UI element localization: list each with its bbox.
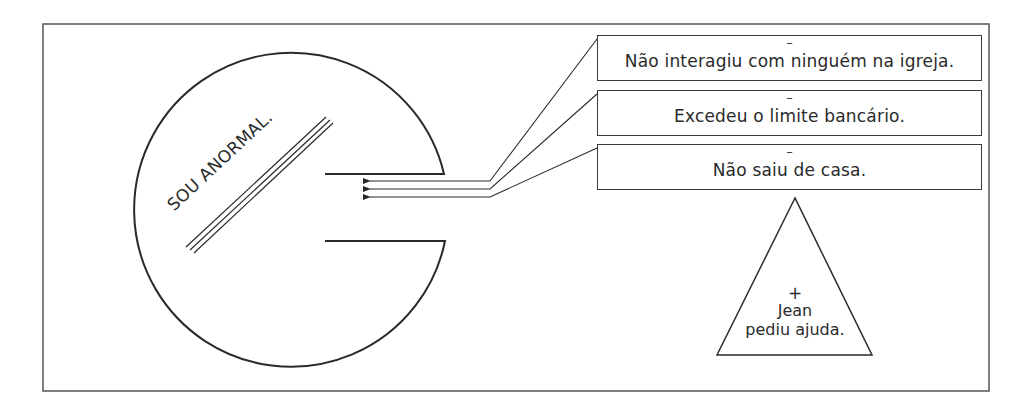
evidence-text: Excedeu o limite bancário.	[598, 104, 981, 128]
positive-evidence-line-1: Jean	[735, 301, 855, 320]
negative-evidence-box-3: – Não saiu de casa.	[597, 144, 982, 190]
evidence-text: Não saiu de casa.	[598, 158, 981, 182]
minus-sign: –	[598, 146, 981, 158]
plus-sign: +	[735, 285, 855, 301]
positive-evidence-text: + Jean pediu ajuda.	[735, 285, 855, 339]
minus-sign: –	[598, 37, 981, 49]
positive-evidence-line-2: pediu ajuda.	[735, 320, 855, 339]
evidence-text: Não interagiu com ninguém na igreja.	[598, 49, 981, 73]
negative-evidence-box-1: – Não interagiu com ninguém na igreja.	[597, 35, 982, 81]
negative-evidence-box-2: – Excedeu o limite bancário.	[597, 90, 982, 136]
minus-sign: –	[598, 92, 981, 104]
diagram-canvas: SOU ANORMAL. – Não interagiu com ninguém…	[0, 0, 1030, 419]
